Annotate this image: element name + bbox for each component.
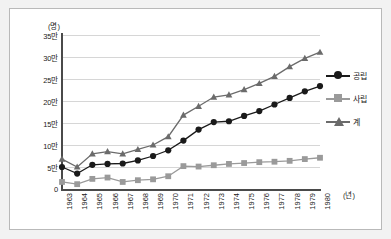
data-point: [150, 176, 156, 182]
series-plot: [62, 35, 320, 189]
data-point: [74, 181, 80, 187]
data-point: [302, 156, 308, 162]
y-axis-tick-label: 0: [54, 185, 58, 194]
data-point: [150, 153, 156, 159]
data-point: [135, 157, 141, 163]
data-point: [165, 173, 171, 179]
x-axis-tick-label: 1964: [80, 193, 89, 210]
data-point: [181, 163, 187, 169]
data-point: [59, 179, 65, 185]
x-axis-tick-labels: 1963196419651966196719681969197019711972…: [62, 193, 320, 239]
data-point: [120, 179, 126, 185]
x-axis-tick-label: 1971: [186, 193, 195, 210]
x-axis-tick-label: 1978: [293, 193, 302, 210]
legend-item-사립[interactable]: 사립: [326, 87, 391, 110]
data-point: [165, 147, 171, 153]
x-axis-tick-label: 1980: [323, 193, 332, 210]
x-axis-tick-label: 1974: [232, 193, 241, 210]
x-axis-tick-label: 1967: [126, 193, 135, 210]
y-axis-tick-label: 30만: [43, 52, 58, 63]
series-계: [59, 49, 324, 170]
chart-figure: (명) (년) 05만10만15만20만25만30만35만 1963196419…: [0, 0, 391, 239]
legend-item-공립[interactable]: 공립: [326, 64, 391, 87]
x-axis-tick-label: 1969: [156, 193, 165, 210]
data-point: [287, 95, 293, 101]
y-axis-tick-label: 5만: [47, 162, 58, 173]
y-axis-tick-labels: 05만10만15만20만25만30만35만: [10, 35, 58, 189]
data-point: [195, 127, 201, 133]
square-marker-icon: [326, 93, 350, 105]
chart-legend: 공립사립계: [326, 64, 391, 133]
x-axis-tick-label: 1973: [217, 193, 226, 210]
data-point: [135, 177, 141, 183]
data-point: [302, 88, 308, 94]
data-point: [59, 164, 65, 170]
x-axis-tick-label: 1979: [308, 193, 317, 210]
x-axis-tick-label: 1977: [277, 193, 286, 210]
x-axis-tick-label: 1970: [171, 193, 180, 210]
series-line: [62, 158, 320, 184]
legend-item-label: 공립: [353, 70, 367, 81]
data-point: [271, 101, 277, 107]
series-공립: [59, 83, 323, 177]
data-point: [180, 112, 187, 118]
data-point: [256, 159, 262, 165]
y-axis-tick-label: 20만: [43, 96, 58, 107]
data-point: [287, 158, 293, 164]
series-line: [62, 86, 320, 174]
y-axis-tick-label: 10만: [43, 140, 58, 151]
x-axis-unit-label: (년): [343, 189, 355, 200]
data-point: [120, 160, 126, 166]
data-point: [150, 142, 157, 148]
data-point: [195, 103, 202, 109]
x-axis-tick-label: 1976: [262, 193, 271, 210]
series-line: [62, 52, 320, 167]
chart-frame: (명) (년) 05만10만15만20만25만30만35만 1963196419…: [9, 8, 382, 230]
data-point: [196, 164, 202, 170]
data-point: [241, 160, 247, 166]
x-axis-tick-label: 1972: [202, 193, 211, 210]
x-axis-tick-label: 1966: [111, 193, 120, 210]
data-point: [317, 49, 324, 55]
x-axis-tick-label: 1963: [65, 193, 74, 210]
data-point: [226, 118, 232, 124]
data-point: [271, 73, 278, 79]
series-사립: [59, 155, 323, 187]
data-point: [105, 175, 111, 181]
x-axis-tick-label: 1975: [247, 193, 256, 210]
data-point: [226, 161, 232, 167]
x-axis-tick-label: 1965: [95, 193, 104, 210]
circle-marker-icon: [326, 70, 350, 82]
data-point: [211, 162, 217, 168]
data-point: [256, 108, 262, 114]
data-point: [317, 155, 323, 161]
x-axis-tick-label: 1968: [141, 193, 150, 210]
legend-item-label: 사립: [353, 93, 367, 104]
legend-item-계[interactable]: 계: [326, 110, 391, 133]
data-point: [211, 119, 217, 125]
triangle-marker-icon: [326, 116, 350, 128]
y-axis-tick-label: 15만: [43, 118, 58, 129]
data-point: [74, 171, 80, 177]
data-point: [317, 83, 323, 89]
data-point: [272, 159, 278, 165]
x-axis-line: [61, 189, 321, 191]
data-point: [59, 156, 66, 162]
data-point: [104, 148, 111, 154]
legend-item-label: 계: [353, 116, 360, 127]
data-point: [104, 161, 110, 167]
data-point: [89, 176, 95, 182]
y-axis-tick-label: 25만: [43, 74, 58, 85]
data-point: [241, 113, 247, 119]
data-point: [180, 138, 186, 144]
y-axis-tick-label: 35만: [43, 30, 58, 41]
data-point: [286, 63, 293, 69]
data-point: [89, 162, 95, 168]
